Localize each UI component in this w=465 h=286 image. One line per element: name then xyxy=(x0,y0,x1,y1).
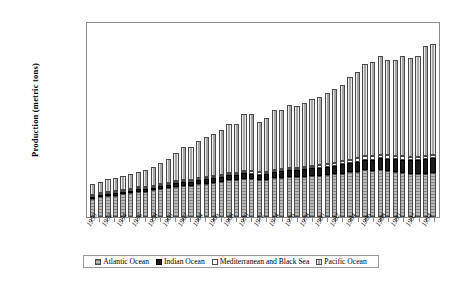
bar-segment[interactable] xyxy=(105,179,110,192)
bar-segment[interactable] xyxy=(408,174,413,217)
stacked-bar[interactable] xyxy=(128,174,133,217)
bar-segment[interactable] xyxy=(173,153,178,181)
bar-segment[interactable] xyxy=(241,114,246,171)
bar-segment[interactable] xyxy=(234,180,239,217)
bar-column[interactable] xyxy=(119,23,127,217)
stacked-bar[interactable] xyxy=(317,97,322,217)
bar-column[interactable] xyxy=(376,23,384,217)
bar-segment[interactable] xyxy=(415,174,420,217)
bar-segment[interactable] xyxy=(393,172,398,217)
stacked-bar[interactable] xyxy=(408,58,413,217)
bar-segment[interactable] xyxy=(173,187,178,217)
bar-segment[interactable] xyxy=(355,72,360,159)
bar-segment[interactable] xyxy=(362,160,367,171)
stacked-bar[interactable] xyxy=(158,163,163,217)
bar-segment[interactable] xyxy=(234,124,239,173)
bar-segment[interactable] xyxy=(113,178,118,191)
stacked-bar[interactable] xyxy=(196,141,201,217)
bar-segment[interactable] xyxy=(120,176,125,189)
bar-column[interactable] xyxy=(225,23,233,217)
bar-segment[interactable] xyxy=(385,171,390,217)
bar-segment[interactable] xyxy=(188,186,193,217)
stacked-bar[interactable] xyxy=(370,62,375,217)
bar-segment[interactable] xyxy=(128,174,133,188)
bar-segment[interactable] xyxy=(113,196,118,217)
stacked-bar[interactable] xyxy=(415,56,420,217)
legend-item[interactable]: Mediterranean and Black Sea xyxy=(212,257,310,266)
bar-segment[interactable] xyxy=(151,167,156,186)
bar-segment[interactable] xyxy=(385,159,390,171)
stacked-bar[interactable] xyxy=(325,93,330,217)
bar-column[interactable] xyxy=(248,23,256,217)
bar-column[interactable] xyxy=(354,23,362,217)
stacked-bar[interactable] xyxy=(362,64,367,217)
stacked-bar[interactable] xyxy=(302,103,307,217)
stacked-bar[interactable] xyxy=(393,60,398,217)
bar-column[interactable] xyxy=(414,23,422,217)
bar-segment[interactable] xyxy=(143,192,148,218)
bar-segment[interactable] xyxy=(196,141,201,178)
bar-segment[interactable] xyxy=(347,77,352,159)
bar-column[interactable] xyxy=(202,23,210,217)
stacked-bar[interactable] xyxy=(347,77,352,217)
bar-column[interactable] xyxy=(301,23,309,217)
bar-segment[interactable] xyxy=(378,158,383,170)
bar-segment[interactable] xyxy=(378,56,383,155)
bar-segment[interactable] xyxy=(279,110,284,169)
stacked-bar[interactable] xyxy=(136,172,141,217)
stacked-bar[interactable] xyxy=(234,124,239,217)
bar-column[interactable] xyxy=(195,23,203,217)
bar-column[interactable] xyxy=(323,23,331,217)
bar-column[interactable] xyxy=(399,23,407,217)
bar-column[interactable] xyxy=(271,23,279,217)
stacked-bar[interactable] xyxy=(294,106,299,217)
bar-segment[interactable] xyxy=(415,160,420,174)
bar-segment[interactable] xyxy=(287,105,292,168)
bar-column[interactable] xyxy=(316,23,324,217)
bar-column[interactable] xyxy=(89,23,97,217)
bar-segment[interactable] xyxy=(204,184,209,217)
stacked-bar[interactable] xyxy=(340,85,345,217)
bar-column[interactable] xyxy=(180,23,188,217)
bar-segment[interactable] xyxy=(362,170,367,217)
bar-column[interactable] xyxy=(422,23,430,217)
stacked-bar[interactable] xyxy=(166,159,171,217)
stacked-bar[interactable] xyxy=(257,122,262,217)
bar-segment[interactable] xyxy=(294,170,299,177)
bar-segment[interactable] xyxy=(430,173,435,217)
stacked-bar[interactable] xyxy=(264,118,269,217)
bar-segment[interactable] xyxy=(249,114,254,171)
bar-segment[interactable] xyxy=(325,93,330,164)
bar-segment[interactable] xyxy=(272,110,277,169)
bar-segment[interactable] xyxy=(423,159,428,174)
stacked-bar[interactable] xyxy=(249,114,254,217)
bar-segment[interactable] xyxy=(362,64,367,157)
stacked-bar[interactable] xyxy=(355,72,360,218)
bar-segment[interactable] xyxy=(219,130,224,175)
bar-segment[interactable] xyxy=(249,179,254,217)
bar-segment[interactable] xyxy=(370,171,375,217)
stacked-bar[interactable] xyxy=(272,110,277,217)
bar-column[interactable] xyxy=(187,23,195,217)
bar-segment[interactable] xyxy=(219,182,224,217)
bar-segment[interactable] xyxy=(347,172,352,217)
bar-column[interactable] xyxy=(134,23,142,217)
bar-segment[interactable] xyxy=(264,180,269,217)
stacked-bar[interactable] xyxy=(211,134,216,217)
bar-segment[interactable] xyxy=(385,60,390,155)
bar-segment[interactable] xyxy=(309,99,314,166)
bar-segment[interactable] xyxy=(332,89,337,163)
bar-segment[interactable] xyxy=(279,178,284,217)
bar-segment[interactable] xyxy=(128,193,133,217)
bar-column[interactable] xyxy=(240,23,248,217)
stacked-bar[interactable] xyxy=(188,147,193,217)
stacked-bar[interactable] xyxy=(332,89,337,217)
bar-segment[interactable] xyxy=(294,106,299,167)
bar-segment[interactable] xyxy=(430,158,435,173)
stacked-bar[interactable] xyxy=(430,44,435,217)
bar-column[interactable] xyxy=(278,23,286,217)
bar-segment[interactable] xyxy=(340,174,345,217)
bar-column[interactable] xyxy=(293,23,301,217)
bar-segment[interactable] xyxy=(211,134,216,177)
bar-column[interactable] xyxy=(369,23,377,217)
